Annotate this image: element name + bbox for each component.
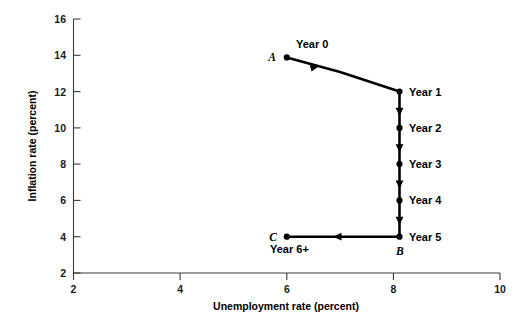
data-point-year5 <box>396 234 402 240</box>
x-tick-label-4: 4 <box>177 283 183 295</box>
data-point-year0 <box>284 54 290 60</box>
chart-canvas: 16 14 12 10 8 6 4 2 Inflation rate (perc… <box>0 0 532 321</box>
y-tick-label-4: 4 <box>60 231 66 243</box>
data-point-year2 <box>396 125 402 131</box>
x-tick-label-2: 2 <box>71 283 77 295</box>
data-point-year6plus <box>284 234 290 240</box>
label-year1: Year 1 <box>409 86 441 98</box>
data-point-year3 <box>396 161 402 167</box>
label-point-a: A <box>267 51 276 63</box>
label-year6plus: Year 6+ <box>270 243 309 255</box>
x-tick-label-6: 6 <box>284 283 290 295</box>
data-point-year4 <box>396 197 402 203</box>
y-tick-label-8: 8 <box>60 158 66 170</box>
y-tick-label-12: 12 <box>54 86 66 98</box>
y-axis-title: Inflation rate (percent) <box>26 91 38 202</box>
label-year0: Year 0 <box>296 38 328 50</box>
x-axis-title: Unemployment rate (percent) <box>213 300 359 312</box>
label-year2: Year 2 <box>409 122 441 134</box>
data-point-year1 <box>396 89 402 95</box>
y-tick-label-10: 10 <box>54 122 66 134</box>
label-year3: Year 3 <box>409 158 441 170</box>
x-tick-label-8: 8 <box>390 283 396 295</box>
phillips-curve-chart: 16 14 12 10 8 6 4 2 Inflation rate (perc… <box>0 0 532 321</box>
label-year4: Year 4 <box>409 194 442 206</box>
label-year5: Year 5 <box>409 231 441 243</box>
y-tick-label-14: 14 <box>54 49 66 61</box>
label-point-c: C <box>269 231 277 243</box>
y-tick-label-2: 2 <box>60 267 66 279</box>
x-tick-label-10: 10 <box>494 283 506 295</box>
y-tick-label-16: 16 <box>54 13 66 25</box>
y-tick-label-6: 6 <box>60 194 66 206</box>
label-point-b: B <box>395 245 404 257</box>
